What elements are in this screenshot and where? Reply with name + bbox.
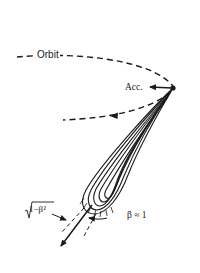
opening-angle-arc-right <box>89 218 107 219</box>
cone-boundary-right <box>84 214 96 236</box>
velocity-direction-arrow <box>61 205 92 246</box>
opening-angle-pointer-left <box>52 214 66 220</box>
orbit-label: Orbit <box>36 50 60 60</box>
radiation-lobe <box>83 88 173 214</box>
acceleration-arrow <box>150 87 172 88</box>
synchrotron-diagram <box>0 0 200 273</box>
acceleration-label: Acc. <box>125 83 143 93</box>
opening-angle-label: 1−β² <box>29 205 46 214</box>
orbit-direction-arrowhead <box>110 113 118 120</box>
beta-condition-label: β ≈ 1 <box>127 211 147 221</box>
